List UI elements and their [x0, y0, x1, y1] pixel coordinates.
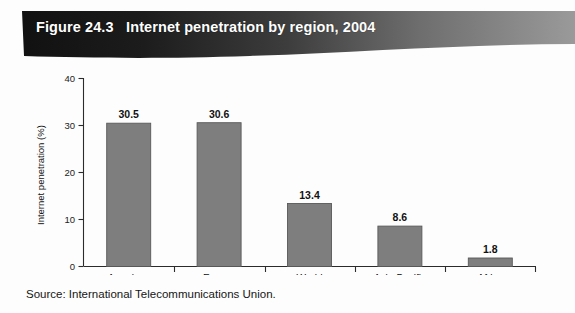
y-tick-label-30: 30 [64, 120, 75, 131]
category-label-americas: Americas [108, 273, 150, 276]
value-label-africa: 1.8 [483, 243, 498, 255]
bar-africa [468, 258, 512, 267]
category-labels-group: AmericasEuropeWorldAsia-PacificAfrica [108, 273, 504, 276]
figure-container: Figure 24.3 Internet penetration by regi… [0, 0, 575, 313]
y-tick-label-10: 10 [64, 214, 75, 225]
value-label-world: 13.4 [299, 189, 320, 201]
category-label-europe: Europe [203, 273, 236, 276]
value-label-americas: 30.5 [118, 108, 139, 120]
category-label-world: World [297, 273, 323, 276]
figure-title: Figure 24.3 Internet penetration by regi… [36, 19, 375, 35]
category-label-africa: Africa [478, 273, 504, 276]
y-tick-label-0: 0 [70, 261, 75, 272]
bar-europe [197, 123, 241, 267]
value-label-asia-pacific: 8.6 [393, 211, 408, 223]
category-label-asia-pacific: Asia-Pacific [374, 273, 426, 276]
y-tick-label-20: 20 [64, 167, 75, 178]
bar-americas [107, 123, 151, 266]
bar-chart-svg: Internet penetration (%) 40 30 20 10 0 [0, 60, 575, 275]
bar-asia-pacific [378, 226, 422, 266]
y-axis-title: Internet penetration (%) [35, 125, 46, 225]
value-label-europe: 30.6 [209, 108, 230, 120]
chart-plot-area: Internet penetration (%) 40 30 20 10 0 [0, 60, 575, 275]
bar-world [288, 204, 332, 267]
figure-header-banner: Figure 24.3 Internet penetration by regi… [0, 0, 575, 66]
source-note: Source: International Telecommunications… [26, 288, 276, 300]
y-tick-label-40: 40 [64, 73, 75, 84]
